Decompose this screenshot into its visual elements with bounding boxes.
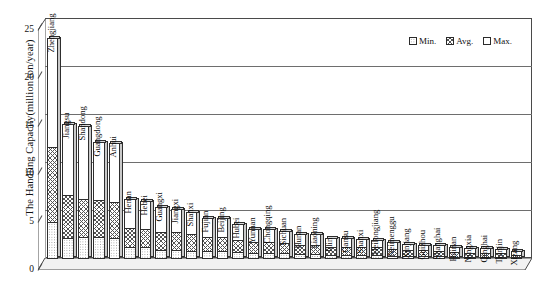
bar-segment-min[interactable] (93, 237, 104, 259)
category-label: Hainan (449, 236, 458, 261)
bar-side-face (275, 228, 278, 257)
category-label: Neimenggu (387, 216, 396, 256)
bar-segment-min[interactable] (279, 253, 290, 259)
y-axis-tick-label: 0 (29, 265, 34, 275)
category-label: Chongqing (264, 206, 273, 244)
legend: Min.Avg.Max. (409, 36, 512, 46)
legend-swatch-dotted (409, 37, 417, 45)
category-label: Heilongjiang (372, 210, 381, 255)
category-label: Xizang (511, 241, 520, 266)
bar-segment-min[interactable] (341, 255, 352, 259)
bar-group[interactable] (47, 19, 58, 259)
legend-label: Max. (493, 36, 512, 46)
y-axis-tick-label: 15 (25, 121, 35, 131)
legend-item[interactable]: Max. (483, 36, 512, 46)
bar-segment-min[interactable] (325, 255, 336, 259)
bar-group[interactable] (62, 19, 73, 259)
category-label: Ningxia (465, 235, 474, 263)
legend-swatch-empty (483, 37, 491, 45)
bar-group[interactable] (433, 19, 444, 259)
category-label: Henan (125, 192, 134, 214)
bar-segment-min[interactable] (263, 253, 274, 259)
legend-item[interactable]: Avg. (446, 36, 473, 46)
bar-segment-min[interactable] (140, 247, 151, 259)
bar-segment-min[interactable] (232, 252, 243, 259)
legend-label: Avg. (456, 36, 473, 46)
bar-side-face (58, 37, 61, 257)
y-axis-tick-label: 20 (25, 73, 35, 83)
y-axis-tick-labels: 0510152025 (12, 0, 34, 287)
category-label: Jilin (325, 238, 334, 253)
category-label: Shanxi (356, 230, 365, 254)
bar-segment-min[interactable] (310, 254, 321, 259)
bar-group[interactable] (140, 19, 151, 259)
bar-group[interactable] (418, 19, 429, 259)
category-label: Qinghai (480, 235, 489, 263)
y-axis-tick-label: 5 (29, 217, 34, 227)
chart-figure: The Handling Capacity(million ton/year) … (0, 0, 538, 287)
category-label: Xinjiang (403, 228, 412, 258)
bar-group[interactable] (511, 19, 522, 259)
legend-item[interactable]: Min. (409, 36, 436, 46)
category-label: Guizhou (418, 230, 427, 260)
bar-side-face (136, 198, 139, 257)
category-label: Guangdong (94, 116, 103, 156)
legend-label: Min. (419, 36, 436, 46)
bar-group[interactable] (480, 19, 491, 259)
bar-group[interactable] (155, 19, 166, 259)
bar-segment-min[interactable] (124, 247, 135, 259)
category-label: Zhengjiang (47, 14, 56, 53)
legend-swatch-hatched (446, 37, 454, 45)
bar-segment-min[interactable] (356, 255, 367, 259)
category-label: Guangxi (156, 192, 165, 222)
bar-group[interactable] (464, 19, 475, 259)
bar-side-face (337, 237, 340, 257)
bar-side-face (445, 244, 448, 257)
bar-group[interactable] (325, 19, 336, 259)
category-label: Beijing (217, 207, 226, 232)
bar-side-face (414, 243, 417, 257)
y-axis-tick-label: 10 (25, 169, 35, 179)
bar-group[interactable] (341, 19, 352, 259)
bar-segment-min[interactable] (62, 238, 73, 259)
bar-segment-min[interactable] (248, 253, 259, 259)
bar-group[interactable] (449, 19, 460, 259)
category-label: Yunnan (248, 218, 257, 244)
bar-group[interactable] (294, 19, 305, 259)
category-label: Hubei (233, 218, 242, 239)
category-label: Shanghai (434, 227, 443, 259)
bar-side-face (306, 233, 309, 257)
bar-segment-min[interactable] (171, 250, 182, 259)
bar-side-face (105, 141, 108, 257)
bar-group[interactable] (124, 19, 135, 259)
bar-group[interactable] (356, 19, 367, 259)
category-label: Sichuan (279, 218, 288, 246)
bar-side-face (167, 206, 170, 257)
category-label: Liaoning (310, 218, 319, 249)
bar-group[interactable] (402, 19, 413, 259)
bar-segment-min[interactable] (47, 222, 58, 259)
bar-segment-min[interactable] (186, 251, 197, 259)
category-label: Shandong (78, 106, 87, 140)
category-label: Tianjin (495, 239, 504, 264)
category-label: Shanxi (186, 203, 195, 227)
bar-segment-min[interactable] (202, 251, 213, 259)
category-label: Hebei (140, 195, 149, 216)
category-label: Jiangxi (171, 199, 180, 224)
bar-segment-min[interactable] (78, 237, 89, 259)
category-label: Gansu (341, 231, 350, 253)
bar-segment-min[interactable] (109, 238, 120, 259)
category-label: Hunan (295, 226, 304, 249)
category-label: Fujian (202, 210, 211, 232)
bar-segment-min[interactable] (371, 255, 382, 259)
plot-area: ZhengjiangJiangsuShandongGuangdongAnhuiH… (38, 18, 532, 270)
bar-side-face (74, 123, 77, 257)
bar-group[interactable] (495, 19, 506, 259)
category-label: Anhui (109, 136, 118, 157)
category-label: Jiangsu (63, 112, 72, 138)
bar-segment-min[interactable] (294, 254, 305, 259)
bar-side-face (244, 223, 247, 257)
y-axis-tick-label: 25 (25, 25, 35, 35)
bar-segment-min[interactable] (217, 251, 228, 259)
bar-segment-min[interactable] (155, 250, 166, 259)
